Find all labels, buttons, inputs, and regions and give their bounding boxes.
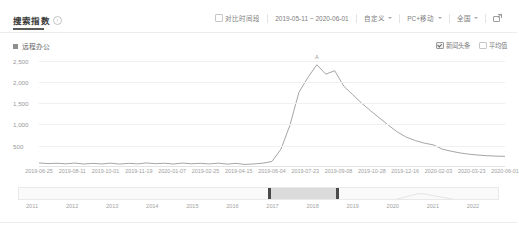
x-axis-tick-label: 2020-03-23	[458, 168, 486, 174]
chevron-down-icon	[474, 17, 478, 19]
timeline-range-selector[interactable]	[18, 187, 499, 200]
timeline-year-label: 2019	[346, 203, 358, 209]
timeline-year-label: 2017	[266, 203, 278, 209]
timeline-overview	[19, 188, 498, 199]
x-axis-tick-label: 2020-01-07	[158, 168, 186, 174]
legend-keyword-label: 远程办公	[22, 41, 50, 51]
gridline	[39, 146, 505, 147]
gridline	[39, 82, 505, 83]
custom-range-label: 自定义	[364, 13, 385, 23]
range-handle-right[interactable]	[336, 188, 339, 199]
x-axis-tick-label: 2019-09-08	[325, 168, 353, 174]
region-filter-label: 全国	[457, 13, 471, 23]
timeline-year-label: 2018	[306, 203, 318, 209]
toggle-average-label: 平均值	[489, 41, 507, 50]
x-axis-tick-label: 2019-06-04	[258, 168, 286, 174]
checkbox-box[interactable]	[479, 42, 487, 50]
timeline-mini-sparkline	[19, 191, 498, 199]
timeline-year-label: 2021	[427, 203, 439, 209]
peak-annotation-marker[interactable]: A	[315, 54, 319, 60]
x-axis-tick-label: 2019-10-01	[92, 168, 120, 174]
toggle-news-headlines-label: 新闻头条	[446, 41, 470, 50]
share-button[interactable]	[486, 14, 509, 23]
x-axis-tick-label: 2020-02-03	[425, 168, 453, 174]
page-title-group: 搜索指数 i	[13, 14, 62, 26]
x-axis-tick-label: 2019-08-11	[59, 168, 86, 174]
x-axis-tick-label: 2019-07-23	[291, 168, 319, 174]
range-selection[interactable]	[268, 188, 337, 199]
y-axis-tick-label: 2,000	[13, 78, 28, 85]
timeline-year-label: 2015	[186, 203, 198, 209]
x-axis-tick-label: 2019-11-19	[125, 168, 152, 174]
y-axis-tick-label: 1,500	[13, 100, 28, 107]
x-axis-tick-label: 2019-04-15	[225, 168, 253, 174]
chart-plot-area[interactable]	[39, 52, 505, 167]
x-axis-tick-label: 2020-06-01	[491, 168, 519, 174]
info-icon[interactable]: i	[53, 16, 62, 25]
gridline	[39, 103, 505, 104]
device-filter-dropdown[interactable]: PC+移动	[400, 13, 448, 23]
gridline	[39, 124, 505, 125]
timeline-year-label: 2013	[106, 203, 118, 209]
timeline-year-label: 2011	[26, 203, 38, 209]
y-axis-tick-label: 500	[13, 142, 23, 149]
range-handle-left[interactable]	[268, 188, 271, 199]
x-axis-tick-label: 2019-12-16	[391, 168, 419, 174]
x-axis-tick-labels: 2019-06-252019-08-112019-10-012019-11-19…	[39, 168, 505, 178]
chart-toolbar: 对比时间段 2019-05-11 ~ 2020-06-01 自定义 PC+移动 …	[208, 13, 509, 23]
y-axis-tick-label: 2,500	[13, 57, 28, 64]
timeline-year-label: 2014	[146, 203, 158, 209]
search-index-line-chart[interactable]: 5001,0001,5002,0002,500 A	[13, 52, 505, 167]
toggle-average[interactable]: 平均值	[479, 41, 507, 50]
y-axis-tick-label: 1,000	[13, 121, 28, 128]
device-filter-label: PC+移动	[407, 13, 434, 23]
compare-period-label: 对比时间段	[225, 13, 260, 23]
x-axis-tick-label: 2019-02-25	[192, 168, 220, 174]
series-toggle-group: 新闻头条 平均值	[436, 41, 507, 50]
date-range-picker[interactable]: 2019-05-11 ~ 2020-06-01	[268, 15, 355, 22]
custom-range-dropdown[interactable]: 自定义	[357, 13, 400, 23]
region-filter-dropdown[interactable]: 全国	[450, 13, 486, 23]
legend-color-swatch	[13, 44, 18, 49]
x-axis-tick-label: 2019-10-28	[358, 168, 386, 174]
x-axis-tick-label: 2019-06-25	[25, 168, 53, 174]
keyword-legend[interactable]: 远程办公	[13, 41, 50, 51]
active-tab-underline	[13, 28, 44, 30]
page-title: 搜索指数	[13, 14, 50, 26]
checkbox-box[interactable]	[436, 42, 444, 50]
panel-header: 搜索指数 i 对比时间段 2019-05-11 ~ 2020-06-01 自定义…	[0, 0, 517, 33]
timeline-year-label: 2012	[66, 203, 78, 209]
timeline-year-label: 2022	[467, 203, 479, 209]
header-divider	[0, 32, 517, 33]
series-line-remote-work	[39, 65, 505, 165]
timeline-year-labels: 2011201220132014201520162017201820192020…	[18, 203, 499, 213]
date-range-value: 2019-05-11 ~ 2020-06-01	[275, 15, 348, 22]
gridline	[39, 61, 505, 62]
chevron-down-icon	[438, 17, 442, 19]
timeline-year-label: 2020	[387, 203, 399, 209]
footer-divider	[0, 222, 517, 223]
share-external-icon	[493, 14, 502, 23]
chevron-down-icon	[388, 17, 392, 19]
compare-period-checkbox[interactable]: 对比时间段	[208, 13, 267, 23]
checkbox-box[interactable]	[215, 14, 223, 22]
toggle-news-headlines[interactable]: 新闻头条	[436, 41, 470, 50]
timeline-year-label: 2016	[226, 203, 238, 209]
